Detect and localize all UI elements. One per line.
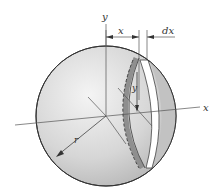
sphere-disk-element-diagram: x y r x dx y: [0, 0, 221, 191]
slice-y-label: y: [131, 83, 138, 93]
x-dim-label: x: [118, 25, 124, 36]
radius-label: r: [74, 135, 79, 145]
dx-dim-label: dx: [162, 25, 174, 36]
y-axis-label: y: [101, 11, 108, 22]
x-axis-label: x: [203, 102, 209, 113]
